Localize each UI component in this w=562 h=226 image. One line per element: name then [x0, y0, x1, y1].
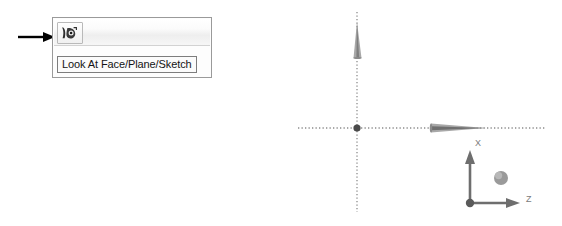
look-at-face-plane-sketch-icon — [61, 25, 79, 41]
origin-point[interactable] — [353, 124, 360, 131]
triad-x-arrowhead — [465, 150, 475, 164]
triad-x-label: X — [475, 138, 481, 148]
triad-y-sphere-highlight — [495, 172, 502, 179]
toolbar-strip — [54, 19, 210, 46]
triad-z-label: Z — [526, 194, 532, 204]
axis-triad: X Z — [465, 138, 532, 208]
cad-3d-viewport[interactable]: X Z — [270, 0, 562, 226]
triad-z-arrowhead — [506, 198, 520, 208]
pointer-arrow — [18, 31, 56, 43]
tooltip-label: Look At Face/Plane/Sketch — [62, 59, 192, 70]
horizontal-cone-arrow — [430, 124, 486, 133]
vertical-cone-arrow — [353, 22, 361, 59]
triad-origin-point — [466, 199, 474, 207]
tooltip: Look At Face/Plane/Sketch — [57, 56, 197, 73]
look-at-face-plane-sketch-button[interactable] — [57, 22, 83, 44]
